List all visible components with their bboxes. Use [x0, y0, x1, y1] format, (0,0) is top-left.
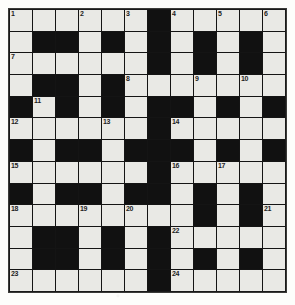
grid-letter-cell[interactable]: [171, 205, 193, 226]
grid-letter-cell[interactable]: [33, 205, 55, 226]
grid-letter-cell[interactable]: 12: [10, 118, 32, 139]
grid-letter-cell[interactable]: [33, 10, 55, 31]
grid-letter-cell[interactable]: 6: [263, 10, 285, 31]
grid-letter-cell[interactable]: [56, 118, 78, 139]
grid-letter-cell[interactable]: [240, 118, 262, 139]
grid-letter-cell[interactable]: [240, 10, 262, 31]
grid-letter-cell[interactable]: 11: [33, 97, 55, 118]
grid-letter-cell[interactable]: [33, 184, 55, 205]
grid-letter-cell[interactable]: [217, 184, 239, 205]
grid-letter-cell[interactable]: [102, 270, 124, 291]
grid-letter-cell[interactable]: [125, 249, 147, 270]
grid-letter-cell[interactable]: [194, 227, 216, 248]
grid-letter-cell[interactable]: 2: [79, 10, 101, 31]
grid-letter-cell[interactable]: 9: [194, 75, 216, 96]
grid-letter-cell[interactable]: [79, 32, 101, 53]
grid-letter-cell[interactable]: [56, 270, 78, 291]
grid-letter-cell[interactable]: [10, 75, 32, 96]
grid-letter-cell[interactable]: [102, 53, 124, 74]
grid-letter-cell[interactable]: [102, 162, 124, 183]
grid-letter-cell[interactable]: [102, 205, 124, 226]
grid-letter-cell[interactable]: [217, 249, 239, 270]
grid-letter-cell[interactable]: [33, 118, 55, 139]
grid-letter-cell[interactable]: [102, 184, 124, 205]
grid-letter-cell[interactable]: [263, 184, 285, 205]
grid-letter-cell[interactable]: [10, 249, 32, 270]
grid-letter-cell[interactable]: [148, 205, 170, 226]
grid-letter-cell[interactable]: [56, 10, 78, 31]
grid-letter-cell[interactable]: [102, 140, 124, 161]
grid-letter-cell[interactable]: [263, 53, 285, 74]
grid-letter-cell[interactable]: [194, 140, 216, 161]
grid-letter-cell[interactable]: [171, 32, 193, 53]
grid-letter-cell[interactable]: [56, 205, 78, 226]
grid-letter-cell[interactable]: [102, 10, 124, 31]
grid-letter-cell[interactable]: [217, 75, 239, 96]
grid-letter-cell[interactable]: [240, 162, 262, 183]
grid-letter-cell[interactable]: [194, 118, 216, 139]
grid-letter-cell[interactable]: [33, 53, 55, 74]
grid-letter-cell[interactable]: [10, 32, 32, 53]
grid-letter-cell[interactable]: 14: [171, 118, 193, 139]
grid-letter-cell[interactable]: [125, 97, 147, 118]
grid-letter-cell[interactable]: [56, 162, 78, 183]
grid-letter-cell[interactable]: [125, 162, 147, 183]
grid-letter-cell[interactable]: [171, 53, 193, 74]
grid-letter-cell[interactable]: [194, 10, 216, 31]
grid-letter-cell[interactable]: [194, 162, 216, 183]
grid-letter-cell[interactable]: [79, 162, 101, 183]
grid-letter-cell[interactable]: 17: [217, 162, 239, 183]
grid-letter-cell[interactable]: [263, 32, 285, 53]
grid-letter-cell[interactable]: 4: [171, 10, 193, 31]
grid-letter-cell[interactable]: [79, 97, 101, 118]
grid-letter-cell[interactable]: [79, 227, 101, 248]
grid-letter-cell[interactable]: [148, 75, 170, 96]
grid-letter-cell[interactable]: [10, 227, 32, 248]
grid-letter-cell[interactable]: [33, 140, 55, 161]
grid-letter-cell[interactable]: [263, 162, 285, 183]
grid-letter-cell[interactable]: [171, 249, 193, 270]
grid-letter-cell[interactable]: 7: [10, 53, 32, 74]
grid-letter-cell[interactable]: [217, 32, 239, 53]
grid-letter-cell[interactable]: [240, 227, 262, 248]
grid-letter-cell[interactable]: 22: [171, 227, 193, 248]
grid-letter-cell[interactable]: [125, 118, 147, 139]
grid-letter-cell[interactable]: [263, 270, 285, 291]
grid-letter-cell[interactable]: [33, 162, 55, 183]
grid-letter-cell[interactable]: [79, 249, 101, 270]
grid-letter-cell[interactable]: 24: [171, 270, 193, 291]
grid-letter-cell[interactable]: [79, 270, 101, 291]
grid-letter-cell[interactable]: 19: [79, 205, 101, 226]
grid-letter-cell[interactable]: [217, 270, 239, 291]
grid-letter-cell[interactable]: [79, 53, 101, 74]
grid-letter-cell[interactable]: 5: [217, 10, 239, 31]
grid-letter-cell[interactable]: [125, 227, 147, 248]
grid-letter-cell[interactable]: 13: [102, 118, 124, 139]
crossword-grid[interactable]: 123456789101112131415161718192021222324: [10, 10, 285, 291]
grid-letter-cell[interactable]: 3: [125, 10, 147, 31]
grid-letter-cell[interactable]: [33, 270, 55, 291]
grid-letter-cell[interactable]: [125, 270, 147, 291]
grid-letter-cell[interactable]: [125, 32, 147, 53]
grid-letter-cell[interactable]: 15: [10, 162, 32, 183]
grid-letter-cell[interactable]: [263, 227, 285, 248]
grid-letter-cell[interactable]: [240, 97, 262, 118]
grid-letter-cell[interactable]: [263, 118, 285, 139]
grid-letter-cell[interactable]: [217, 118, 239, 139]
grid-letter-cell[interactable]: [194, 270, 216, 291]
grid-letter-cell[interactable]: [79, 118, 101, 139]
grid-letter-cell[interactable]: 18: [10, 205, 32, 226]
grid-letter-cell[interactable]: 1: [10, 10, 32, 31]
grid-letter-cell[interactable]: 16: [171, 162, 193, 183]
grid-letter-cell[interactable]: [217, 53, 239, 74]
grid-letter-cell[interactable]: [240, 140, 262, 161]
grid-letter-cell[interactable]: [125, 53, 147, 74]
grid-letter-cell[interactable]: [240, 270, 262, 291]
grid-letter-cell[interactable]: 20: [125, 205, 147, 226]
grid-letter-cell[interactable]: [217, 205, 239, 226]
grid-letter-cell[interactable]: 21: [263, 205, 285, 226]
grid-letter-cell[interactable]: 23: [10, 270, 32, 291]
grid-letter-cell[interactable]: [217, 227, 239, 248]
grid-letter-cell[interactable]: [56, 53, 78, 74]
grid-letter-cell[interactable]: 10: [240, 75, 262, 96]
